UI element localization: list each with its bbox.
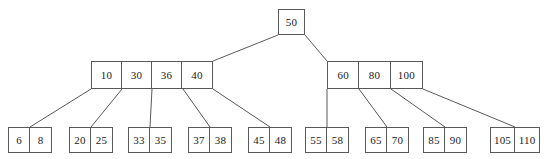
tree-edge-internal-left-to-leaf-3	[150, 89, 152, 127]
key-cell[interactable]: 60	[328, 62, 359, 88]
tree-node-leaf-1[interactable]: 68	[8, 127, 52, 153]
key-cell[interactable]: 58	[327, 128, 348, 152]
b-tree-diagram: 5010303640608010068202533353738454855586…	[0, 0, 546, 159]
tree-node-leaf-7[interactable]: 6570	[365, 127, 409, 153]
key-cell[interactable]: 25	[91, 128, 112, 152]
key-cell[interactable]: 105	[491, 128, 515, 152]
key-cell[interactable]: 37	[189, 128, 210, 152]
tree-node-leaf-4[interactable]: 3738	[188, 127, 232, 153]
tree-node-internal-right[interactable]: 6080100	[327, 61, 423, 89]
tree-node-internal-left[interactable]: 10303640	[91, 61, 213, 89]
tree-edge-internal-right-to-leaf-7	[359, 89, 387, 127]
key-cell[interactable]: 85	[424, 128, 445, 152]
tree-node-leaf-3[interactable]: 3335	[128, 127, 172, 153]
tree-edge-root-to-internal-right	[305, 35, 327, 61]
key-cell[interactable]: 100	[391, 62, 422, 88]
tree-edge-internal-right-to-leaf-8	[391, 89, 445, 127]
key-cell[interactable]: 70	[387, 128, 408, 152]
key-cell[interactable]: 10	[92, 62, 122, 88]
key-cell[interactable]: 6	[9, 128, 30, 152]
key-cell[interactable]: 35	[150, 128, 171, 152]
tree-edge-root-to-internal-left	[213, 35, 278, 61]
key-cell[interactable]: 36	[152, 62, 182, 88]
tree-node-leaf-9[interactable]: 105110	[490, 127, 540, 153]
tree-edge-internal-left-to-leaf-2	[91, 89, 122, 127]
key-cell[interactable]: 48	[270, 128, 291, 152]
tree-node-leaf-6[interactable]: 5558	[305, 127, 349, 153]
key-cell[interactable]: 45	[249, 128, 270, 152]
tree-node-leaf-5[interactable]: 4548	[248, 127, 292, 153]
key-cell[interactable]: 110	[515, 128, 539, 152]
tree-edge-internal-right-to-leaf-9	[423, 89, 515, 127]
tree-edge-internal-left-to-leaf-4	[183, 89, 210, 127]
key-cell[interactable]: 50	[279, 10, 304, 34]
tree-node-root[interactable]: 50	[278, 9, 305, 35]
key-cell[interactable]: 90	[445, 128, 466, 152]
tree-edge-internal-left-to-leaf-1	[30, 89, 91, 127]
key-cell[interactable]: 8	[30, 128, 51, 152]
key-cell[interactable]: 38	[210, 128, 231, 152]
key-cell[interactable]: 65	[366, 128, 387, 152]
tree-node-leaf-2[interactable]: 2025	[69, 127, 113, 153]
key-cell[interactable]: 55	[306, 128, 327, 152]
key-cell[interactable]: 20	[70, 128, 91, 152]
key-cell[interactable]: 80	[359, 62, 390, 88]
key-cell[interactable]: 40	[182, 62, 212, 88]
key-cell[interactable]: 30	[122, 62, 152, 88]
key-cell[interactable]: 33	[129, 128, 150, 152]
tree-edge-internal-left-to-leaf-5	[213, 89, 270, 127]
tree-node-leaf-8[interactable]: 8590	[423, 127, 467, 153]
